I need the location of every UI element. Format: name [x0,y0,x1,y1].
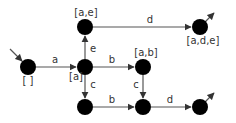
edge-label: b [109,54,115,65]
state-node-n7 [192,99,208,115]
final-arrow-icon [205,13,214,22]
edge-label: a [52,54,58,65]
state-node-n4 [135,59,151,75]
edge-label: c [90,79,96,90]
edge-label: d [167,94,173,105]
state-node-n3 [192,19,208,35]
state-node-n0 [20,59,36,75]
node-label: [a] [69,71,83,82]
edge-label: b [109,94,115,105]
state-diagram: aedbccbd[ ][a][a,e][a,d,e][a,b] [0,0,236,123]
node-label: [a,b] [134,47,158,58]
initial-arrow-icon [10,49,22,61]
state-node-n5 [77,99,93,115]
edge-label: d [147,14,153,25]
edge-label: e [90,43,96,54]
state-node-n6 [135,99,151,115]
node-label: [a,d,e] [187,35,220,46]
node-label: [a,e] [74,7,97,18]
labels-layer: aedbccbd[ ][a][a,e][a,d,e][a,b] [23,7,220,105]
final-arrow-icon [205,93,214,102]
node-label: [ ] [23,75,34,86]
edge-label: c [133,79,139,90]
state-node-n2 [77,19,93,35]
